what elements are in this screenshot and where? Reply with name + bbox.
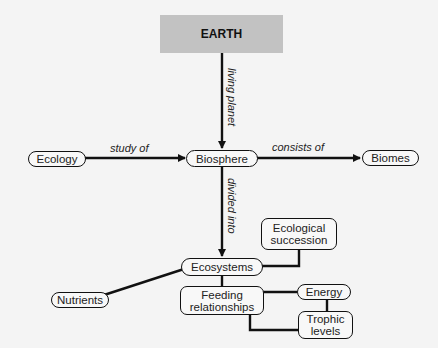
node-feeding-relationships: Feeding relationships <box>180 286 264 315</box>
node-energy: Energy <box>297 284 351 300</box>
link-label-divided-into: divided into <box>226 178 238 234</box>
link-label-living-planet: living planet <box>226 68 238 126</box>
earth-title-node: EARTH <box>160 15 283 53</box>
node-ecosystems: Ecosystems <box>181 258 263 276</box>
node-ecological-succession: Ecological succession <box>261 218 337 250</box>
node-nutrients: Nutrients <box>51 292 109 308</box>
node-trophic-levels: Trophic levels <box>298 311 353 339</box>
link-label-consists-of: consists of <box>272 141 324 153</box>
node-biomes: Biomes <box>362 150 419 166</box>
node-ecology: Ecology <box>28 151 86 167</box>
node-biosphere: Biosphere <box>186 150 258 167</box>
link-label-study-of: study of <box>110 142 149 154</box>
